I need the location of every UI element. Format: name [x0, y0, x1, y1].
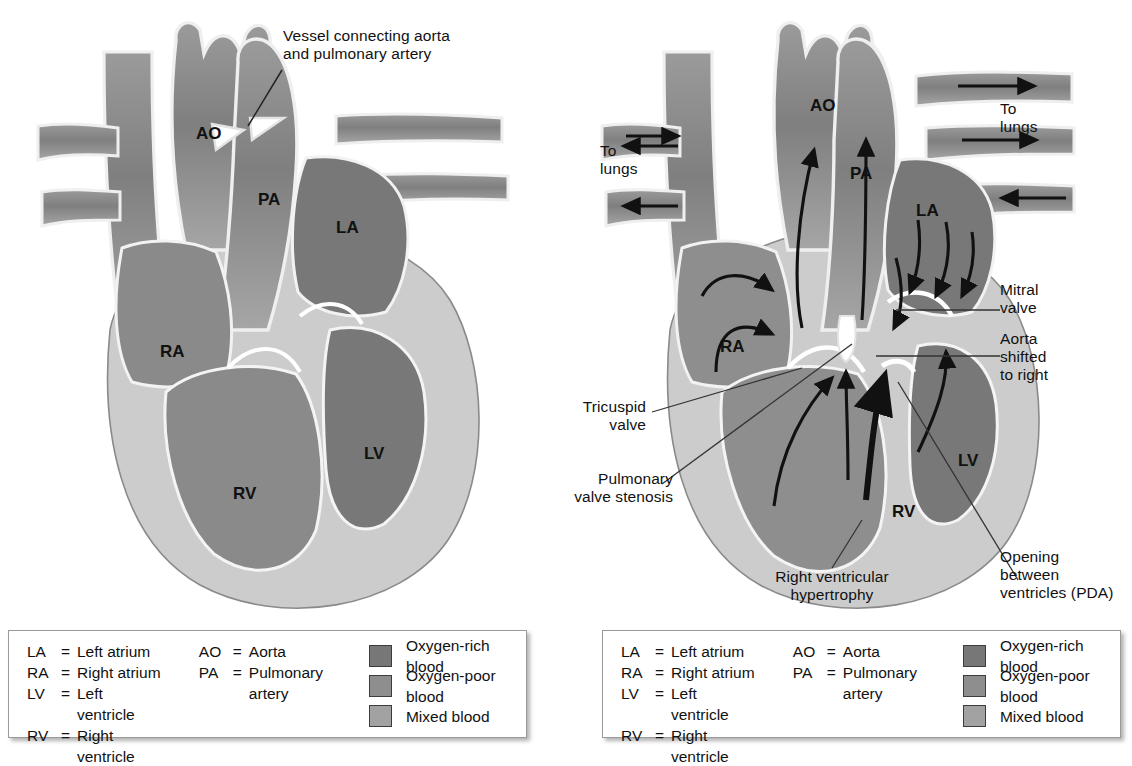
legend-row-pa: PA=Pulmonary artery [199, 662, 323, 704]
legend-val-ra: Right atrium [671, 662, 755, 683]
chamber-label-ao: AO [810, 96, 836, 115]
legend-eq: = [827, 641, 843, 662]
chamber-label-ao: AO [196, 124, 222, 143]
swatch-oxygen-poor-icon [369, 675, 392, 697]
legend-right: LA=Left atrium RA=Right atrium LV=Left v… [602, 630, 1121, 738]
legend-key-ao: AO [199, 641, 233, 662]
chamber-label-la: LA [916, 201, 939, 220]
callout-vessel-connecting: Vessel connecting aorta and pulmonary ar… [283, 27, 450, 63]
diagram-panel-left: AO PA LA RA LV RV Vessel connecting aort… [0, 0, 566, 624]
legend-key-la: LA [27, 641, 61, 662]
legend-abbreviations-col1: LA=Left atrium RA=Right atrium LV=Left v… [621, 641, 759, 737]
heart-cross-section-right: AO PA LA RA LV RV [566, 0, 1132, 624]
legend-val-ao: Aorta [843, 641, 880, 662]
vena-cava-branch2-left [42, 190, 120, 226]
legend-row-ra: RA=Right atrium [27, 662, 165, 683]
swatch-label-mixed: Mixed blood [406, 706, 490, 727]
right-atrium-right [676, 241, 792, 387]
chamber-label-pa: PA [258, 190, 280, 209]
swatch-oxygen-rich-icon [963, 645, 986, 667]
chamber-label-pa: PA [850, 164, 872, 183]
legend-row-rv: RV=Right ventricle [27, 725, 165, 766]
legend-left: LA=Left atrium RA=Right atrium LV=Left v… [8, 630, 527, 738]
legend-eq: = [655, 683, 671, 725]
to-lungs-vessel-right-1 [916, 72, 1072, 106]
callout-right-ventricular-hypertrophy: Right ventricular hypertrophy [726, 568, 938, 604]
legend-val-pa: Pulmonary artery [843, 662, 917, 704]
chamber-label-rv: RV [892, 502, 916, 521]
legend-val-lv: Left ventricle [77, 683, 165, 725]
legend-abbreviations-col2: AO=Aorta PA=Pulmonary artery [199, 641, 323, 737]
swatch-label-mixed: Mixed blood [1000, 706, 1084, 727]
callout-aorta-shifted: Aorta shifted to right [1000, 330, 1048, 384]
legend-swatch-row-oxygen-poor: Oxygen-poor blood [369, 671, 526, 701]
swatch-oxygen-poor-icon [963, 675, 986, 697]
callout-to-lungs-left: To lungs [600, 142, 638, 178]
legend-key-ra: RA [621, 662, 655, 683]
swatch-label-oxygen-poor: Oxygen-poor blood [406, 665, 526, 707]
callout-pulmonary-valve-stenosis: Pulmonary valve stenosis [566, 470, 673, 506]
legend-val-ao: Aorta [249, 641, 286, 662]
chamber-label-ra: RA [720, 337, 745, 356]
legend-val-la: Left atrium [77, 641, 150, 662]
legend-row-la: LA=Left atrium [27, 641, 165, 662]
legend-key-lv: LV [621, 683, 655, 725]
legend-row-pa: PA=Pulmonary artery [793, 662, 917, 704]
legend-row-lv: LV=Left ventricle [27, 683, 165, 725]
vena-cava-branch-left [38, 124, 118, 160]
legend-val-la: Left atrium [671, 641, 744, 662]
legend-eq: = [233, 641, 249, 662]
chamber-label-lv: LV [364, 444, 385, 463]
legend-row-lv: LV=Left ventricle [621, 683, 759, 725]
swatch-mixed-icon [369, 705, 392, 727]
legend-eq: = [61, 683, 77, 725]
legend-eq: = [61, 662, 77, 683]
legend-eq: = [655, 662, 671, 683]
pulmonary-veins-left [336, 114, 502, 144]
swatch-mixed-icon [963, 705, 986, 727]
legend-key-rv: RV [27, 725, 61, 766]
legend-abbreviations-col1: LA=Left atrium RA=Right atrium LV=Left v… [27, 641, 165, 737]
to-lungs-vessel-left-2 [606, 190, 684, 226]
legend-swatches: Oxygen-rich blood Oxygen-poor blood Mixe… [369, 641, 526, 737]
legend-val-rv: Right ventricle [671, 725, 759, 766]
legend-val-ra: Right atrium [77, 662, 161, 683]
legend-key-la: LA [621, 641, 655, 662]
legend-key-ao: AO [793, 641, 827, 662]
chamber-label-lv: LV [958, 451, 979, 470]
legend-eq: = [827, 662, 843, 704]
legend-swatch-row-oxygen-poor: Oxygen-poor blood [963, 671, 1120, 701]
legend-row-ao: AO=Aorta [199, 641, 323, 662]
right-atrium-left [116, 241, 232, 387]
chamber-label-la: LA [336, 218, 359, 237]
legend-key-ra: RA [27, 662, 61, 683]
chamber-label-rv: RV [233, 484, 257, 503]
callout-opening-between-ventricles: Opening between ventricles (PDA) [1000, 548, 1114, 602]
chamber-label-ra: RA [160, 342, 185, 361]
legend-eq: = [655, 641, 671, 662]
diagram-panel-right: AO PA LA RA LV RV To lungs To lungs Mitr… [566, 0, 1132, 624]
callout-tricuspid-valve: Tricuspid valve [566, 398, 646, 434]
callout-to-lungs-right: To lungs [1000, 100, 1038, 136]
legend-row-ra: RA=Right atrium [621, 662, 759, 683]
legend-eq: = [655, 725, 671, 766]
legend-key-pa: PA [199, 662, 233, 704]
legend-row-ao: AO=Aorta [793, 641, 917, 662]
legend-row-la: LA=Left atrium [621, 641, 759, 662]
legend-row-rv: RV=Right ventricle [621, 725, 759, 766]
legend-val-rv: Right ventricle [77, 725, 165, 766]
legend-val-pa: Pulmonary artery [249, 662, 323, 704]
swatch-oxygen-rich-icon [369, 645, 392, 667]
legend-val-lv: Left ventricle [671, 683, 759, 725]
swatch-label-oxygen-poor: Oxygen-poor blood [1000, 665, 1120, 707]
heart-cross-section-left: AO PA LA RA LV RV [0, 0, 566, 624]
legend-abbreviations-col2: AO=Aorta PA=Pulmonary artery [793, 641, 917, 737]
legend-eq: = [233, 662, 249, 704]
legend-eq: = [61, 641, 77, 662]
legend-key-lv: LV [27, 683, 61, 725]
callout-mitral-valve: Mitral valve [1000, 281, 1039, 317]
legend-swatches: Oxygen-rich blood Oxygen-poor blood Mixe… [963, 641, 1120, 737]
legend-eq: = [61, 725, 77, 766]
legend-key-pa: PA [793, 662, 827, 704]
legend-key-rv: RV [621, 725, 655, 766]
